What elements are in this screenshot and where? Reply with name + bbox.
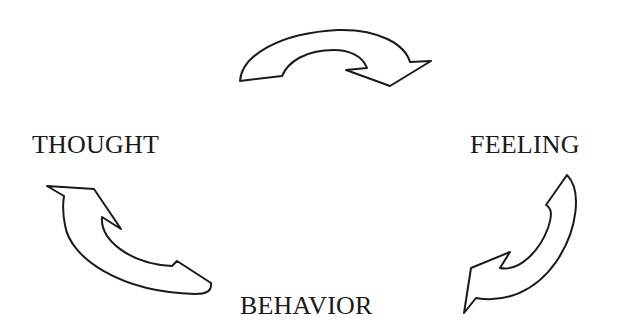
node-feeling-label: FEELING [470,132,580,158]
arrows-layer [0,0,622,333]
cycle-diagram: THOUGHT FEELING BEHAVIOR [0,0,622,333]
arrow-behavior-to-thought-icon [47,186,211,294]
arrow-thought-to-feeling-icon [240,30,431,86]
node-behavior-label: BEHAVIOR [240,293,373,319]
arrow-feeling-to-behavior-icon [464,175,576,313]
node-thought-label: THOUGHT [32,132,159,158]
